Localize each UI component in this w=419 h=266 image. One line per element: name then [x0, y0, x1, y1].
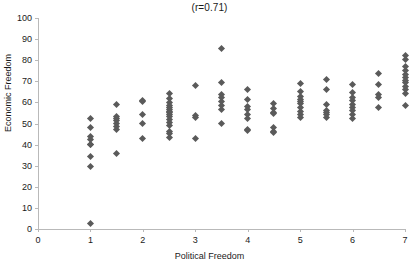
y-tick-label: 30 — [2, 162, 32, 171]
x-tick-label: 0 — [26, 236, 50, 245]
data-point — [218, 45, 225, 52]
x-tick-label: 5 — [288, 236, 312, 245]
data-point — [218, 120, 225, 127]
data-point — [323, 86, 330, 93]
data-point — [192, 135, 199, 142]
data-point — [244, 115, 251, 122]
data-point — [87, 115, 94, 122]
y-tick-label: 80 — [2, 56, 32, 65]
data-point — [87, 124, 94, 131]
data-point — [297, 80, 304, 87]
data-point — [401, 102, 408, 109]
data-point — [401, 90, 408, 97]
x-axis-title: Political Freedom — [0, 251, 419, 261]
data-point — [113, 101, 120, 108]
data-point — [87, 153, 94, 160]
x-tick-label: 7 — [393, 236, 417, 245]
chart-title: (r=0.71) — [0, 2, 419, 13]
data-point — [139, 135, 146, 142]
y-tick-label: 20 — [2, 183, 32, 192]
x-tick-label: 3 — [183, 236, 207, 245]
y-tick-label: 40 — [2, 141, 32, 150]
plot-area — [38, 18, 405, 229]
y-tick-label: 50 — [2, 120, 32, 129]
data-point — [87, 163, 94, 170]
x-tick-label: 2 — [131, 236, 155, 245]
x-tick-mark — [143, 229, 144, 232]
data-point — [323, 76, 330, 83]
x-tick-mark — [405, 229, 406, 232]
data-point — [349, 81, 356, 88]
scatter-chart: (r=0.71) Economic Freedom Political Free… — [0, 0, 419, 266]
data-point — [192, 82, 199, 89]
y-tick-label: 60 — [2, 98, 32, 107]
x-tick-mark — [300, 229, 301, 232]
data-point — [375, 81, 382, 88]
data-point — [87, 141, 94, 148]
x-tick-label: 1 — [78, 236, 102, 245]
x-tick-label: 4 — [236, 236, 260, 245]
x-tick-mark — [195, 229, 196, 232]
y-tick-label: 0 — [2, 225, 32, 234]
x-tick-mark — [248, 229, 249, 232]
y-tick-label: 100 — [2, 14, 32, 23]
x-tick-mark — [353, 229, 354, 232]
y-tick-label: 90 — [2, 35, 32, 44]
y-axis-title: Economic Freedom — [3, 33, 13, 153]
data-point — [113, 150, 120, 157]
y-tick-label: 10 — [2, 204, 32, 213]
data-point — [87, 220, 94, 227]
x-tick-mark — [38, 229, 39, 232]
x-tick-mark — [90, 229, 91, 232]
data-point — [139, 120, 146, 127]
data-point — [244, 96, 251, 103]
x-tick-label: 6 — [341, 236, 365, 245]
x-axis-line — [38, 229, 405, 230]
data-point — [218, 79, 225, 86]
data-point — [375, 70, 382, 77]
data-point — [139, 98, 146, 105]
data-point — [375, 103, 382, 110]
data-point — [244, 86, 251, 93]
data-point — [139, 111, 146, 118]
data-point — [218, 106, 225, 113]
data-point — [349, 115, 356, 122]
y-tick-label: 70 — [2, 77, 32, 86]
